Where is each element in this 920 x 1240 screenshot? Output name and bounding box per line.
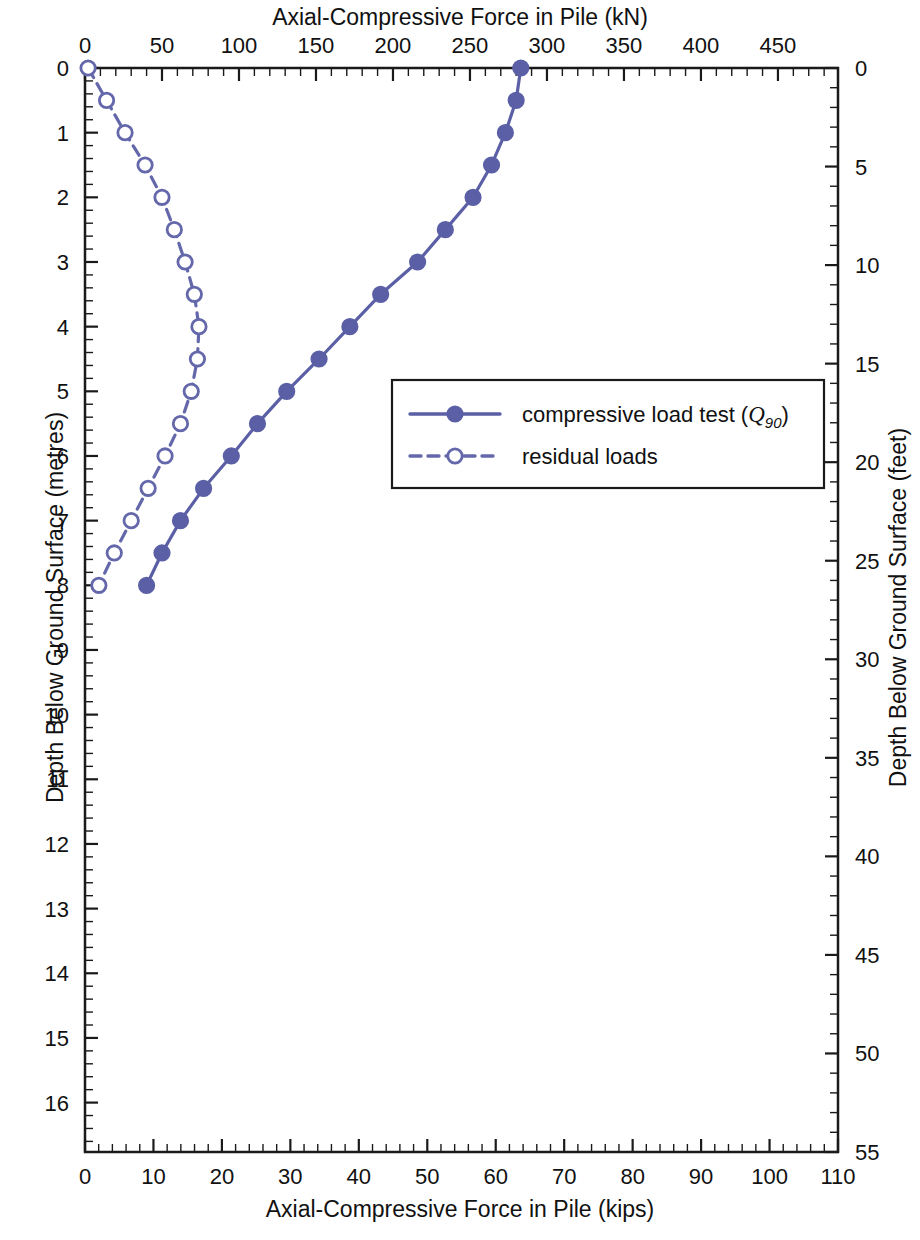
series-group [81,61,528,593]
series-line [88,68,199,585]
right-axis-tick-label: 30 [855,647,879,672]
top-axis-tick-label: 200 [375,33,412,58]
data-point-marker [192,319,206,333]
data-point-marker [466,190,480,204]
bottom-axis-tick-label: 50 [415,1164,439,1189]
plot-area: 0501001502002503003504004500102030405060… [0,0,920,1240]
data-point-marker [312,352,326,366]
axes-group: 0501001502002503003504004500102030405060… [45,33,880,1189]
chart-figure: Axial-Compressive Force in Pile (kN) Axi… [0,0,920,1240]
bottom-axis-tick-label: 10 [141,1164,165,1189]
top-axis-tick-label: 300 [529,33,566,58]
data-point-marker [484,158,498,172]
data-point-marker [92,578,106,592]
left-axis-title: Depth Below Ground Surface (metres) [42,288,69,928]
bottom-axis-tick-label: 60 [483,1164,507,1189]
left-axis-tick-label: 15 [45,1026,69,1051]
left-axis-tick-label: 3 [57,250,69,275]
data-point-marker [250,416,264,430]
data-point-marker [158,449,172,463]
right-axis-tick-label: 55 [855,1140,879,1165]
data-point-marker [190,352,204,366]
legend-border [392,380,824,488]
right-axis-tick-label: 40 [855,844,879,869]
data-point-marker [184,384,198,398]
right-axis-tick-label: 0 [855,56,867,81]
top-axis-tick-label: 250 [452,33,489,58]
top-axis-tick-label: 400 [683,33,720,58]
top-axis-tick-label: 50 [150,33,174,58]
data-point-marker [141,481,155,495]
top-axis-tick-label: 150 [298,33,335,58]
left-axis-tick-label: 16 [45,1091,69,1116]
top-axis-title: Axial-Compressive Force in Pile (kN) [0,4,920,31]
data-point-marker [509,93,523,107]
right-axis-tick-label: 35 [855,746,879,771]
data-point-marker [187,287,201,301]
bottom-axis-tick-label: 20 [210,1164,234,1189]
data-point-marker [173,513,187,527]
data-point-marker [99,93,113,107]
top-axis-tick-label: 350 [606,33,643,58]
data-point-marker [118,125,132,139]
right-axis-tick-label: 10 [855,253,879,278]
bottom-axis-tick-label: 30 [278,1164,302,1189]
right-axis-tick-label: 5 [855,155,867,180]
bottom-axis-tick-label: 100 [751,1164,788,1189]
legend-label: compressive load test (Q90) [522,402,789,431]
legend-box: compressive load test (Q90)residual load… [392,380,824,488]
data-point-marker [124,513,138,527]
left-axis-tick-label: 1 [57,121,69,146]
bottom-axis-tick-label: 70 [552,1164,576,1189]
bottom-axis-tick-label: 80 [620,1164,644,1189]
right-axis-tick-label: 45 [855,943,879,968]
data-point-marker [138,158,152,172]
top-axis-tick-label: 100 [221,33,258,58]
data-point-marker [155,190,169,204]
data-point-marker [224,449,238,463]
top-axis-tick-label: 0 [79,33,91,58]
data-point-marker [343,319,357,333]
data-point-marker [178,255,192,269]
right-axis-tick-label: 25 [855,549,879,574]
left-axis-tick-label: 0 [57,56,69,81]
data-point-marker [280,384,294,398]
data-point-marker [373,287,387,301]
bottom-axis-tick-label: 40 [347,1164,371,1189]
right-axis-tick-label: 50 [855,1041,879,1066]
legend-label: residual loads [522,444,658,469]
data-point-marker [107,546,121,560]
right-axis-title: Depth Below Ground Surface (feet) [885,288,912,928]
data-point-marker [167,222,181,236]
bottom-axis-tick-label: 90 [689,1164,713,1189]
data-point-marker [81,61,95,75]
legend-sample-marker [448,449,462,463]
data-point-marker [139,578,153,592]
right-axis-tick-label: 20 [855,450,879,475]
bottom-axis-title: Axial-Compressive Force in Pile (kips) [0,1196,920,1223]
bottom-axis-tick-label: 110 [820,1164,855,1189]
data-point-marker [410,255,424,269]
data-point-marker [196,481,210,495]
data-point-marker [498,125,512,139]
bottom-axis-tick-label: 0 [79,1164,91,1189]
data-point-marker [155,546,169,560]
top-axis-tick-label: 450 [760,33,797,58]
legend-sample-marker [448,407,462,421]
data-point-marker [438,222,452,236]
left-axis-tick-label: 2 [57,185,69,210]
data-point-marker [514,61,528,75]
data-point-marker [173,416,187,430]
right-axis-tick-label: 15 [855,352,879,377]
left-axis-tick-label: 14 [45,961,69,986]
